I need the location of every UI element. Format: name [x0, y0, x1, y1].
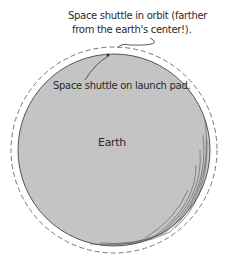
- launch-pad-label: Space shuttle on launch pad.: [53, 80, 190, 91]
- earth-label: Earth: [98, 136, 126, 149]
- orbit-label-line1: Space shuttle in orbit (farther: [68, 10, 207, 21]
- shuttle-launch-point: [107, 54, 110, 57]
- orbit-pointer-arrow: [118, 38, 155, 48]
- earth-orbit-diagram: [0, 0, 225, 262]
- orbit-label-line2: from the earth's center!).: [72, 24, 191, 35]
